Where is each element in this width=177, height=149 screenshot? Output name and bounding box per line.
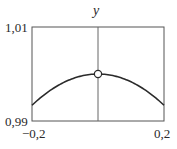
- y-tick-top: 1,01: [5, 21, 28, 34]
- x-tick-right: 0,2: [154, 127, 170, 140]
- open-circle-point: [94, 70, 101, 77]
- y-axis-label: y: [93, 4, 99, 18]
- x-tick-left: −0,2: [22, 127, 46, 140]
